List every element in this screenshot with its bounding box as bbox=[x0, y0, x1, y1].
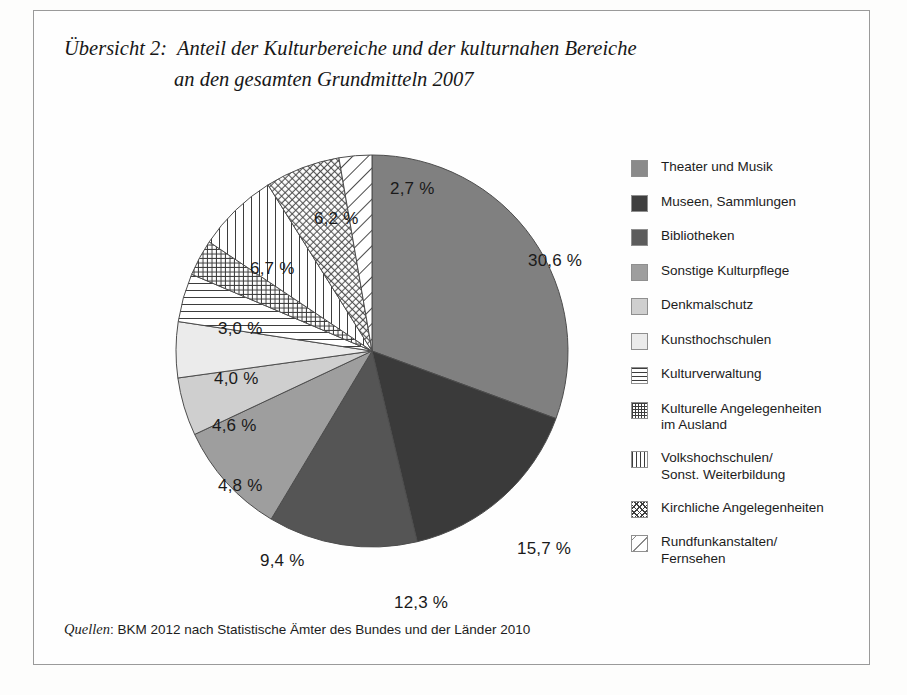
legend-label: Bibliotheken bbox=[661, 228, 735, 245]
chart-area: 30,6 %15,7 %12,3 %9,4 %4,8 %4,6 %4,0 %3,… bbox=[64, 131, 624, 611]
legend-swatch-icon bbox=[631, 229, 648, 246]
pie-value-label: 9,4 % bbox=[260, 551, 304, 571]
legend-label: Sonstige Kulturpflege bbox=[661, 263, 789, 280]
figure-frame: Übersicht 2: Anteil der Kulturbereiche u… bbox=[33, 10, 870, 665]
title-line-2: an den gesamten Grundmitteln 2007 bbox=[64, 64, 764, 95]
legend-label: Museen, Sammlungen bbox=[661, 194, 796, 211]
legend-item[interactable]: Theater und Musik bbox=[631, 159, 881, 177]
legend-label: Kulturelle Angelegenheiten im Ausland bbox=[661, 401, 822, 434]
legend-swatch-icon bbox=[631, 535, 648, 552]
pie-value-label: 2,7 % bbox=[390, 179, 434, 199]
legend-label: Kirchliche Angelegenheiten bbox=[661, 500, 824, 517]
pie-value-label: 6,7 % bbox=[250, 259, 294, 279]
legend-item[interactable]: Kulturelle Angelegenheiten im Ausland bbox=[631, 401, 881, 434]
source-text: : BKM 2012 nach Statistische Ämter des B… bbox=[110, 622, 530, 637]
legend-label: Volkshochschulen/ Sonst. Weiterbildung bbox=[661, 450, 785, 483]
legend-item[interactable]: Sonstige Kulturpflege bbox=[631, 263, 881, 281]
legend-swatch-icon bbox=[631, 298, 648, 315]
pie-value-label: 6,2 % bbox=[314, 209, 358, 229]
legend-label: Denkmalschutz bbox=[661, 297, 753, 314]
legend-label: Kunsthochschulen bbox=[661, 332, 771, 349]
legend-swatch-icon bbox=[631, 195, 648, 212]
pie-value-label: 4,6 % bbox=[212, 416, 256, 436]
legend-swatch-icon bbox=[631, 501, 648, 518]
legend-item[interactable]: Bibliotheken bbox=[631, 228, 881, 246]
legend-item[interactable]: Museen, Sammlungen bbox=[631, 194, 881, 212]
pie-value-label: 3,0 % bbox=[218, 319, 262, 339]
legend: Theater und MusikMuseen, SammlungenBibli… bbox=[631, 159, 881, 584]
legend-label: Rundfunkanstalten/ Fernsehen bbox=[661, 534, 777, 567]
pie-value-label: 15,7 % bbox=[517, 539, 571, 559]
legend-item[interactable]: Rundfunkanstalten/ Fernsehen bbox=[631, 534, 881, 567]
pie-value-label: 4,0 % bbox=[214, 369, 258, 389]
legend-swatch-icon bbox=[631, 367, 648, 384]
legend-swatch-icon bbox=[631, 333, 648, 350]
pie-value-label: 12,3 % bbox=[394, 593, 448, 613]
source-key: Quellen bbox=[64, 621, 110, 637]
legend-item[interactable]: Volkshochschulen/ Sonst. Weiterbildung bbox=[631, 450, 881, 483]
legend-item[interactable]: Kunsthochschulen bbox=[631, 332, 881, 350]
legend-swatch-icon bbox=[631, 451, 648, 468]
pie-value-label: 4,8 % bbox=[218, 476, 262, 496]
legend-item[interactable]: Kulturverwaltung bbox=[631, 366, 881, 384]
pie-value-label: 30,6 % bbox=[528, 251, 582, 271]
title-line-1: Übersicht 2: Anteil der Kulturbereiche u… bbox=[64, 33, 764, 64]
legend-swatch-icon bbox=[631, 160, 648, 177]
legend-item[interactable]: Kirchliche Angelegenheiten bbox=[631, 500, 881, 518]
legend-label: Theater und Musik bbox=[661, 159, 773, 176]
legend-swatch-icon bbox=[631, 402, 648, 419]
pie-chart: 30,6 %15,7 %12,3 %9,4 %4,8 %4,6 %4,0 %3,… bbox=[172, 151, 572, 551]
figure-title: Übersicht 2: Anteil der Kulturbereiche u… bbox=[64, 33, 764, 95]
legend-swatch-icon bbox=[631, 264, 648, 281]
legend-label: Kulturverwaltung bbox=[661, 366, 762, 383]
legend-item[interactable]: Denkmalschutz bbox=[631, 297, 881, 315]
source-note: Quellen: BKM 2012 nach Statistische Ämte… bbox=[64, 621, 530, 638]
